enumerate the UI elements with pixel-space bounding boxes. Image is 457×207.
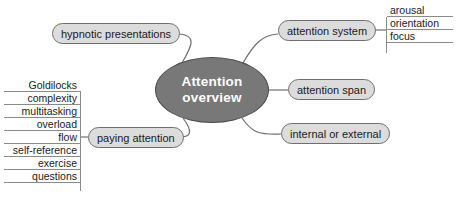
leaf-item[interactable]: Goldilocks <box>4 79 80 92</box>
branch-paying-attention[interactable]: paying attention <box>88 127 184 148</box>
branch-label: attention span <box>297 84 366 96</box>
branch-label: paying attention <box>97 132 175 144</box>
branch-hypnotic-presentations[interactable]: hypnotic presentations <box>52 23 180 44</box>
leaf-item[interactable]: focus <box>387 30 453 43</box>
leaf-item[interactable]: multitasking <box>4 105 80 118</box>
branch-label: hypnotic presentations <box>61 28 171 40</box>
branch-attention-system[interactable]: attention system <box>278 20 376 41</box>
leaf-list-paying-attention: Goldilocks complexity multitasking overl… <box>4 79 80 183</box>
leaf-item[interactable]: questions <box>4 170 80 183</box>
connector-attention-system <box>243 34 278 63</box>
center-node[interactable]: Attention overview <box>155 57 269 123</box>
branch-attention-span[interactable]: attention span <box>288 79 375 100</box>
leaf-item[interactable]: exercise <box>4 157 80 170</box>
branch-label: attention system <box>287 25 367 37</box>
leaf-list-attention-system: arousal orientation focus <box>387 4 453 43</box>
leaf-item[interactable]: overload <box>4 118 80 131</box>
leaf-item[interactable]: complexity <box>4 92 80 105</box>
center-node-label-line2: overview <box>182 90 241 105</box>
leaf-item[interactable]: self-reference <box>4 144 80 157</box>
leaf-item[interactable]: arousal <box>387 4 453 17</box>
leaf-item[interactable]: orientation <box>387 17 453 30</box>
leaf-spine-paying-attention <box>80 91 81 191</box>
leaf-item[interactable]: flow <box>4 131 80 144</box>
branch-label: internal or external <box>290 128 381 140</box>
connector-internal-or-external <box>242 118 281 134</box>
mind-map-diagram: Attention overview hypnotic presentation… <box>0 0 457 207</box>
center-node-label-line1: Attention <box>181 74 242 89</box>
branch-internal-or-external[interactable]: internal or external <box>281 123 390 144</box>
